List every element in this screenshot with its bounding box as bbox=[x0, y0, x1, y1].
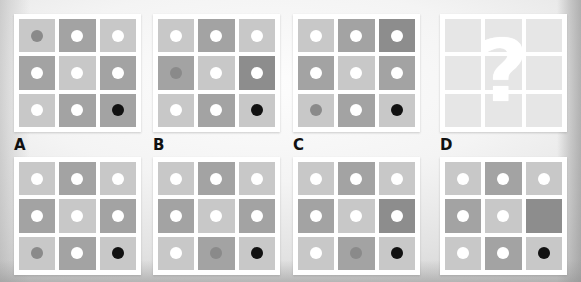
dot-white bbox=[457, 173, 469, 185]
dot-white bbox=[497, 210, 509, 222]
matrix-cell bbox=[445, 56, 481, 89]
dot-white bbox=[251, 30, 263, 42]
matrix-cell bbox=[239, 237, 275, 270]
matrix-cell bbox=[298, 19, 334, 52]
matrix-cell bbox=[526, 56, 562, 89]
dot-black bbox=[391, 104, 403, 116]
matrix-cell bbox=[485, 237, 521, 270]
dot-white bbox=[31, 210, 43, 222]
dot-white bbox=[112, 30, 124, 42]
dot-black bbox=[251, 104, 263, 116]
dot-white bbox=[391, 173, 403, 185]
dot-white bbox=[170, 173, 182, 185]
dot-white bbox=[170, 247, 182, 259]
dot-gray bbox=[170, 67, 182, 79]
matrix-cell bbox=[338, 56, 374, 89]
dot-white bbox=[71, 104, 83, 116]
matrix-cell bbox=[379, 56, 415, 89]
dot-white bbox=[497, 247, 509, 259]
option-grid-d[interactable] bbox=[440, 157, 567, 275]
matrix-cell bbox=[338, 94, 374, 127]
matrix-cell bbox=[19, 19, 55, 52]
matrix-3x3 bbox=[440, 14, 567, 132]
matrix-cell bbox=[158, 237, 194, 270]
matrix-cell bbox=[298, 94, 334, 127]
matrix-cell bbox=[298, 162, 334, 195]
matrix-3x3 bbox=[14, 14, 141, 132]
matrix-cell bbox=[445, 237, 481, 270]
matrix-cell bbox=[445, 162, 481, 195]
dot-white bbox=[170, 210, 182, 222]
dot-gray bbox=[350, 247, 362, 259]
matrix-cell bbox=[59, 56, 95, 89]
matrix-cell bbox=[19, 162, 55, 195]
dot-white bbox=[71, 210, 83, 222]
matrix-3x3 bbox=[153, 14, 280, 132]
matrix-cell bbox=[239, 162, 275, 195]
dot-white bbox=[538, 173, 550, 185]
matrix-cell bbox=[338, 199, 374, 232]
matrix-cell bbox=[158, 19, 194, 52]
dot-white bbox=[31, 104, 43, 116]
matrix-cell bbox=[198, 162, 234, 195]
dot-white bbox=[71, 173, 83, 185]
dot-gray bbox=[310, 104, 322, 116]
label-d: D bbox=[440, 138, 453, 153]
option-label-band: ABCD bbox=[0, 138, 581, 156]
label-a: A bbox=[14, 138, 26, 153]
dot-white bbox=[112, 67, 124, 79]
matrix-cell bbox=[158, 162, 194, 195]
dot-white bbox=[210, 30, 222, 42]
matrix-cell bbox=[338, 19, 374, 52]
option-grid-c[interactable] bbox=[293, 157, 420, 275]
matrix-cell bbox=[100, 94, 136, 127]
matrix-cell bbox=[526, 19, 562, 52]
matrix-cell bbox=[158, 56, 194, 89]
option-grid-a[interactable] bbox=[14, 157, 141, 275]
reference-grid-4-unknown: ? bbox=[440, 14, 567, 132]
matrix-cell bbox=[19, 237, 55, 270]
matrix-cell bbox=[239, 56, 275, 89]
matrix-cell bbox=[379, 19, 415, 52]
matrix-cell bbox=[198, 199, 234, 232]
reference-grid-2 bbox=[153, 14, 280, 132]
dot-white bbox=[71, 247, 83, 259]
matrix-cell bbox=[100, 19, 136, 52]
dot-white bbox=[251, 67, 263, 79]
dot-white bbox=[210, 173, 222, 185]
matrix-cell bbox=[445, 19, 481, 52]
dot-white bbox=[350, 67, 362, 79]
dot-black bbox=[112, 247, 124, 259]
dot-white bbox=[391, 67, 403, 79]
option-grid-b[interactable] bbox=[153, 157, 280, 275]
matrix-cell bbox=[19, 199, 55, 232]
matrix-cell bbox=[239, 94, 275, 127]
matrix-3x3 bbox=[440, 157, 567, 275]
dot-white bbox=[350, 30, 362, 42]
dot-gray bbox=[31, 30, 43, 42]
matrix-cell bbox=[198, 19, 234, 52]
matrix-cell bbox=[59, 199, 95, 232]
dot-white bbox=[210, 210, 222, 222]
label-c: C bbox=[293, 138, 304, 153]
matrix-cell bbox=[158, 94, 194, 127]
matrix-cell bbox=[239, 199, 275, 232]
dot-black bbox=[391, 247, 403, 259]
dot-gray bbox=[31, 247, 43, 259]
matrix-3x3 bbox=[153, 157, 280, 275]
matrix-cell bbox=[198, 94, 234, 127]
matrix-cell bbox=[379, 237, 415, 270]
matrix-cell bbox=[485, 94, 521, 127]
matrix-cell bbox=[298, 237, 334, 270]
matrix-cell bbox=[485, 56, 521, 89]
matrix-cell bbox=[379, 199, 415, 232]
matrix-cell bbox=[59, 19, 95, 52]
matrix-cell bbox=[485, 19, 521, 52]
dot-white bbox=[251, 210, 263, 222]
matrix-3x3 bbox=[14, 157, 141, 275]
dot-white bbox=[251, 173, 263, 185]
dot-white bbox=[71, 67, 83, 79]
matrix-cell bbox=[19, 56, 55, 89]
dot-white bbox=[71, 30, 83, 42]
reference-grid-3 bbox=[293, 14, 420, 132]
